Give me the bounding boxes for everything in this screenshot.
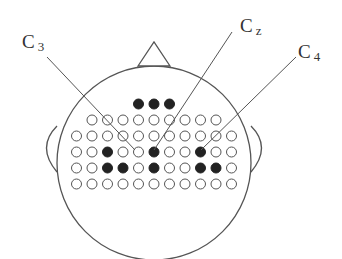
electrode-inactive xyxy=(118,179,128,189)
electrode-active xyxy=(118,163,128,173)
electrode-inactive xyxy=(103,115,113,125)
electrode-inactive xyxy=(134,115,144,125)
electrode-inactive xyxy=(103,179,113,189)
electrode-inactive xyxy=(87,147,97,157)
electrode-inactive xyxy=(134,163,144,173)
electrode-active xyxy=(103,147,113,157)
electrode-active xyxy=(165,99,175,109)
electrode-active xyxy=(134,99,144,109)
electrode-labels: C3CzC4 xyxy=(22,15,321,64)
electrode-inactive xyxy=(165,115,175,125)
electrode-inactive xyxy=(149,179,159,189)
electrode-inactive xyxy=(134,179,144,189)
electrode-inactive xyxy=(196,115,206,125)
electrode-inactive xyxy=(180,147,190,157)
electrode-inactive xyxy=(165,147,175,157)
label-c4: C4 xyxy=(298,41,321,64)
nose-marker xyxy=(138,42,170,66)
right-ear xyxy=(251,126,262,172)
electrode-inactive xyxy=(87,163,97,173)
electrode-inactive xyxy=(211,179,221,189)
electrode-inactive xyxy=(118,131,128,141)
electrode-inactive xyxy=(134,131,144,141)
electrode-inactive xyxy=(72,147,82,157)
electrode-inactive xyxy=(211,147,221,157)
electrode-inactive xyxy=(87,179,97,189)
electrode-active xyxy=(211,163,221,173)
electrode-inactive xyxy=(180,115,190,125)
electrode-inactive xyxy=(72,179,82,189)
left-ear xyxy=(47,126,58,172)
electrode-inactive xyxy=(149,131,159,141)
electrode-inactive xyxy=(227,163,237,173)
electrode-inactive xyxy=(180,163,190,173)
electrode-inactive xyxy=(196,179,206,189)
electrode-active xyxy=(149,147,159,157)
electrode-inactive xyxy=(180,131,190,141)
electrode-inactive xyxy=(87,115,97,125)
electrode-active xyxy=(149,163,159,173)
electrode-inactive xyxy=(165,179,175,189)
electrode-inactive xyxy=(227,179,237,189)
electrode-inactive xyxy=(165,163,175,173)
label-cz: Cz xyxy=(240,15,262,38)
electrode-inactive xyxy=(180,179,190,189)
electrode-inactive xyxy=(118,147,128,157)
electrode-active xyxy=(196,163,206,173)
electrode-inactive xyxy=(227,131,237,141)
electrode-inactive xyxy=(196,131,206,141)
electrode-inactive xyxy=(103,131,113,141)
electrode-inactive xyxy=(227,147,237,157)
electrode-inactive xyxy=(72,131,82,141)
electrode-inactive xyxy=(72,163,82,173)
label-c3: C3 xyxy=(22,31,44,54)
electrode-active xyxy=(149,99,159,109)
electrode-inactive xyxy=(118,115,128,125)
electrode-inactive xyxy=(134,147,144,157)
electrode-inactive xyxy=(149,115,159,125)
electrode-active xyxy=(196,147,206,157)
electrode-active xyxy=(103,163,113,173)
electrode-inactive xyxy=(211,115,221,125)
eeg-head-diagram: C3CzC4 xyxy=(0,0,342,259)
electrode-inactive xyxy=(87,131,97,141)
